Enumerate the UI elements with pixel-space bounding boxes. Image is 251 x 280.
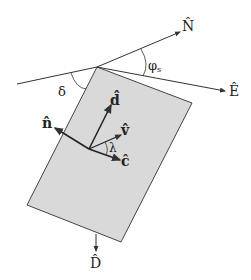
fault-plane-diagram: N̂ Ê D̂ δ φs d̂ n̂ v̂ ĉ λ: [0, 0, 251, 280]
east-label: Ê: [229, 82, 239, 99]
dip-angle-arc: [71, 73, 86, 89]
strike-angle-arc: [141, 49, 146, 76]
dip-angle-label: δ: [58, 84, 66, 99]
rake-angle-label: λ: [109, 141, 117, 155]
normal-vector-label: n̂: [42, 115, 52, 131]
strike-angle-label: φs: [148, 58, 161, 74]
slip-vector-label: v̂: [120, 122, 130, 138]
north-axis-arrow: [97, 32, 180, 67]
strike-vector-label: ĉ: [121, 153, 130, 169]
dip-vector-label: d̂: [110, 90, 120, 108]
down-label: D̂: [90, 254, 101, 271]
horizontal-line: [17, 67, 97, 84]
strike-angle-subscript: s: [157, 65, 161, 74]
north-label: N̂: [182, 17, 194, 34]
